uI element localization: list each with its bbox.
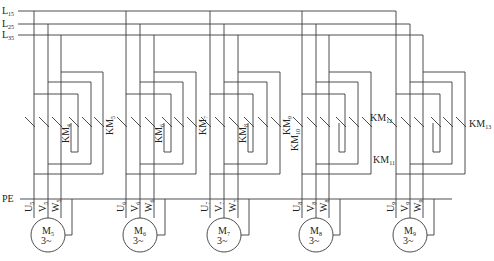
contact-stroke: [349, 117, 359, 127]
contact-stroke: [117, 117, 127, 127]
terminal-label-W8: W8: [318, 200, 330, 212]
contact-stroke: [229, 117, 239, 127]
motor-branch-M9: KM12KM13U9V9W9M93~: [370, 11, 491, 252]
motor-rating: 3~: [41, 235, 52, 246]
contact-stroke: [145, 117, 155, 127]
contact-stroke: [414, 117, 424, 127]
contact-stroke: [401, 117, 411, 127]
contact-stroke: [456, 117, 466, 127]
bus-label: L35: [2, 29, 14, 41]
motor-rating: 3~: [217, 235, 228, 246]
contact-stroke: [271, 117, 281, 127]
contact-stroke: [25, 117, 35, 127]
motor-rating: 3~: [309, 235, 320, 246]
bus-3: L35: [2, 29, 423, 41]
motor-branch-M5: KM4KM5U5V5W5M53~: [23, 11, 116, 252]
contactor-label-KM12: KM12: [370, 112, 392, 124]
motor-rating: 3~: [403, 235, 414, 246]
terminal-label-V7: V7: [213, 202, 225, 212]
terminal-label-U8: U8: [291, 202, 303, 212]
terminal-label-W9: W9: [412, 200, 424, 212]
contact-stroke: [293, 117, 303, 127]
bus-1: L15: [2, 5, 396, 17]
contactor-label-KM13: KM13: [469, 118, 491, 130]
terminal-label-W5: W5: [50, 200, 62, 212]
contactor-label-KM5: KM5: [104, 116, 116, 135]
contact-stroke: [431, 117, 441, 127]
bus-label: L15: [2, 5, 14, 17]
contact-stroke: [52, 117, 62, 127]
terminal-label-U7: U7: [199, 202, 211, 212]
motor-rating: 3~: [133, 235, 144, 246]
terminal-label-V9: V9: [399, 202, 411, 212]
bus-2: L25: [2, 18, 410, 30]
supply-buses: L15L25L35: [2, 5, 423, 41]
contact-stroke: [39, 117, 49, 127]
circuit-svg: L15L25L35PEKM4KM5U5V5W5M53~KM6KM7U6V6W6M…: [0, 0, 494, 261]
contact-stroke: [131, 117, 141, 127]
contact-stroke: [94, 117, 104, 127]
contact-stroke: [258, 117, 268, 127]
contact-stroke: [320, 117, 330, 127]
terminal-label-V6: V6: [129, 202, 141, 212]
contact-stroke: [82, 117, 92, 127]
terminal-label-W6: W6: [143, 200, 155, 212]
terminal-label-V8: V8: [305, 202, 317, 212]
pe-label: PE: [2, 193, 14, 204]
motor-branch-M7: KM8KM9U7V7W7M73~: [199, 11, 293, 252]
contact-stroke: [215, 117, 225, 127]
contact-stroke: [187, 117, 197, 127]
terminal-label-U6: U6: [115, 202, 127, 212]
terminal-label-U9: U9: [385, 202, 397, 212]
pe-bus: PE: [2, 193, 452, 204]
contact-stroke: [307, 117, 317, 127]
terminal-label-W7: W7: [227, 200, 239, 212]
terminal-label-V5: V5: [37, 202, 49, 212]
motor-branch-M6: KM6KM7U6V6W6M63~: [115, 11, 209, 252]
contact-stroke: [443, 117, 453, 127]
contact-stroke: [336, 117, 346, 127]
motor-branch-M8: KM10KM11U8V8W8M83~: [289, 11, 395, 252]
motor-control-circuit-diagram: L15L25L35PEKM4KM5U5V5W5M53~KM6KM7U6V6W6M…: [0, 0, 494, 261]
contact-stroke: [174, 117, 184, 127]
terminal-label-U5: U5: [23, 202, 35, 212]
contactor-label-KM9: KM9: [281, 116, 293, 135]
contactor-label-KM11: KM11: [373, 154, 395, 166]
